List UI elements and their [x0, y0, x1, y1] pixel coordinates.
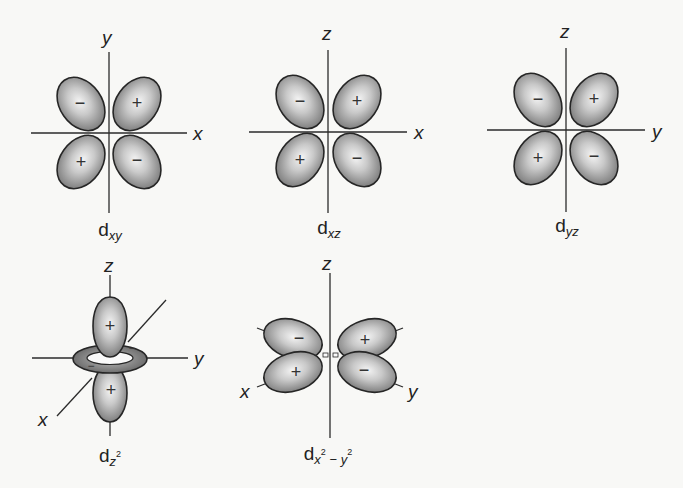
- orbital-dxz: − + + − z x dxz: [249, 23, 425, 241]
- axis-label-z: z: [321, 253, 332, 274]
- sign-minus: −: [132, 150, 143, 170]
- axis-label-z: z: [321, 23, 332, 44]
- orbital-dxy: − + + − y x dxy: [31, 27, 204, 243]
- lobe-lower-right: −: [103, 126, 171, 198]
- sign-minus: −: [295, 91, 306, 111]
- lobe-lower-left: +: [504, 122, 572, 194]
- sign-plus: +: [533, 148, 544, 168]
- sign-plus: +: [360, 330, 371, 350]
- sign-minus: −: [128, 341, 135, 355]
- sign-minus: −: [589, 146, 600, 166]
- lobe-upper-left: −: [47, 68, 115, 140]
- orbital-label-dxz: dxz: [317, 217, 341, 241]
- lobe-lower-left: +: [47, 126, 115, 198]
- sign-plus: +: [76, 152, 87, 172]
- sign-plus: +: [589, 89, 600, 109]
- lobe-upper: +: [93, 297, 127, 357]
- orbital-label-dz2: dz2: [99, 445, 121, 469]
- axis-label-x: x: [413, 122, 425, 143]
- orbital-label-dxy: dxy: [98, 219, 123, 243]
- sign-minus: −: [533, 89, 544, 109]
- orbital-label-dx2-y2: dx2 − y2: [304, 443, 352, 467]
- sign-plus: +: [295, 150, 306, 170]
- axis-label-y: y: [192, 348, 205, 369]
- sign-plus: +: [291, 362, 302, 382]
- axis-label-y: y: [650, 121, 663, 142]
- sign-plus: +: [132, 93, 143, 113]
- axis-label-x: x: [192, 123, 204, 144]
- axis-label-x: x: [37, 409, 49, 430]
- node-marker: [323, 353, 328, 357]
- axis-label-y: y: [406, 381, 419, 402]
- sign-minus: −: [359, 360, 370, 380]
- x-axis-line-front: [57, 378, 92, 416]
- sign-minus: −: [87, 359, 94, 373]
- sign-plus: +: [106, 380, 117, 400]
- lobe-upper-left: −: [504, 64, 572, 136]
- d-orbitals-diagram: − + + − y x dxy − + +: [0, 0, 683, 488]
- orbital-dyz: − + + − z y dyz: [487, 21, 663, 239]
- axis-label-x: x: [239, 381, 251, 402]
- orbital-label-dyz: dyz: [555, 215, 579, 239]
- lobe-lower-right: −: [560, 122, 628, 194]
- sign-plus: +: [352, 91, 363, 111]
- lobe-lower-right: −: [323, 124, 391, 196]
- lobe-lower-left: +: [266, 124, 334, 196]
- lobe-upper-right: +: [560, 64, 628, 136]
- orbital-dx2-y2: − + + − z x y dx2 − y2: [239, 253, 419, 467]
- lobe-upper-left: −: [266, 66, 334, 138]
- sign-minus: −: [294, 328, 305, 348]
- sign-minus: −: [352, 148, 363, 168]
- lobe-upper-right: +: [323, 66, 391, 138]
- axis-label-y: y: [100, 27, 113, 48]
- sign-minus: −: [75, 93, 86, 113]
- axis-label-z: z: [103, 255, 114, 276]
- sign-plus: +: [105, 316, 116, 336]
- axis-label-z: z: [559, 21, 570, 42]
- x-axis-line-back: [128, 300, 166, 342]
- orbital-dz2: + − − + z y x dz2: [32, 255, 205, 469]
- lobe-upper-right: +: [103, 68, 171, 140]
- node-marker: [333, 353, 338, 357]
